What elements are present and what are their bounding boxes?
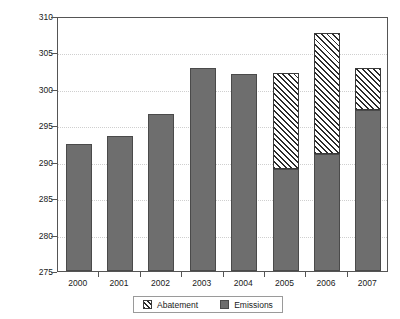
x-tick-mark xyxy=(98,272,99,277)
y-axis-ticks: 310305300295290285280275 xyxy=(21,17,53,272)
x-tick-label-2004: 2004 xyxy=(221,278,265,288)
x-tick-label-2007: 2007 xyxy=(345,278,389,288)
y-tick-mark xyxy=(51,126,57,127)
legend-item-emissions[interactable]: Emissions xyxy=(220,300,273,310)
y-tick-label: 310 xyxy=(27,12,53,22)
x-tick-mark xyxy=(347,272,348,277)
bar-segment-abatement[interactable] xyxy=(355,68,381,110)
bar-group[interactable] xyxy=(148,16,174,271)
bar-segment-emissions[interactable] xyxy=(273,169,299,271)
y-tick-mark xyxy=(51,53,57,54)
x-tick-label-2005: 2005 xyxy=(263,278,307,288)
cropped-title-remnant xyxy=(6,0,126,7)
emissions-swatch-icon xyxy=(220,300,229,309)
y-tick-mark xyxy=(51,90,57,91)
plot-area xyxy=(57,17,388,272)
y-tick-mark xyxy=(51,163,57,164)
bar-segment-emissions[interactable] xyxy=(107,136,133,271)
bar-group[interactable] xyxy=(66,16,92,271)
bar-group[interactable] xyxy=(314,16,340,271)
bar-segment-emissions[interactable] xyxy=(231,74,257,271)
y-tick-label: 280 xyxy=(27,231,53,241)
y-tick-label: 305 xyxy=(27,48,53,58)
legend-item-abatement[interactable]: Abatement xyxy=(143,300,198,310)
y-tick-mark xyxy=(51,199,57,200)
bar-segment-emissions[interactable] xyxy=(190,68,216,271)
legend-label-abatement: Abatement xyxy=(157,300,198,310)
x-tick-label-2003: 2003 xyxy=(180,278,224,288)
bar-group[interactable] xyxy=(273,16,299,271)
x-tick-label-2002: 2002 xyxy=(138,278,182,288)
bar-group[interactable] xyxy=(107,16,133,271)
bar-group[interactable] xyxy=(190,16,216,271)
bar-segment-emissions[interactable] xyxy=(148,114,174,271)
bar-segment-emissions[interactable] xyxy=(66,144,92,272)
x-tick-mark xyxy=(305,272,306,277)
emissions-abatement-bar-chart: Million tonnes CO2 310305300295290285280… xyxy=(0,0,400,319)
bar-group[interactable] xyxy=(231,16,257,271)
x-tick-mark xyxy=(223,272,224,277)
y-tick-mark xyxy=(51,236,57,237)
x-tick-label-2000: 2000 xyxy=(56,278,100,288)
y-tick-label: 290 xyxy=(27,158,53,168)
abatement-swatch-icon xyxy=(143,300,152,309)
x-tick-label-2006: 2006 xyxy=(304,278,348,288)
bar-segment-emissions[interactable] xyxy=(355,110,381,271)
bar-segment-abatement[interactable] xyxy=(314,33,340,153)
bar-group[interactable] xyxy=(355,16,381,271)
y-tick-label: 285 xyxy=(27,194,53,204)
y-tick-mark xyxy=(51,17,57,18)
x-tick-mark xyxy=(181,272,182,277)
legend-label-emissions: Emissions xyxy=(234,300,273,310)
y-tick-mark xyxy=(51,272,57,273)
bar-segment-emissions[interactable] xyxy=(314,154,340,271)
y-tick-label: 275 xyxy=(27,267,53,277)
bar-segment-abatement[interactable] xyxy=(273,73,299,169)
chart-legend: Abatement Emissions xyxy=(133,296,283,313)
y-tick-label: 295 xyxy=(27,121,53,131)
x-tick-mark xyxy=(140,272,141,277)
x-tick-mark xyxy=(264,272,265,277)
y-tick-label: 300 xyxy=(27,85,53,95)
x-tick-label-2001: 2001 xyxy=(97,278,141,288)
